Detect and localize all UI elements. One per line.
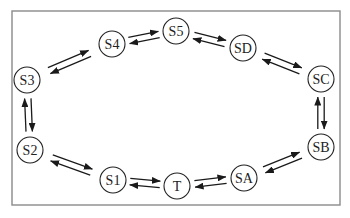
- state-node-s3: S3: [14, 67, 40, 93]
- node-label: T: [173, 179, 182, 194]
- node-label: SB: [312, 140, 329, 155]
- state-node-sd: SD: [230, 35, 256, 61]
- node-label: SD: [234, 41, 252, 56]
- node-label: SA: [235, 171, 254, 186]
- node-label: S2: [23, 143, 38, 158]
- node-label: S3: [20, 73, 35, 88]
- node-label: S5: [169, 24, 184, 39]
- node-label: S4: [105, 37, 120, 52]
- node-label: S1: [106, 173, 121, 188]
- state-node-sc: SC: [308, 66, 334, 92]
- state-node-s4: S4: [99, 31, 125, 57]
- state-node-s2: S2: [17, 137, 43, 163]
- state-diagram: S5SDSCSBSATS1S2S3S4: [0, 0, 350, 218]
- state-node-s1: S1: [100, 167, 126, 193]
- state-node-s5: S5: [163, 18, 189, 44]
- state-node-sa: SA: [231, 165, 257, 191]
- state-node-t: T: [164, 173, 190, 199]
- state-node-sb: SB: [308, 134, 334, 160]
- node-label: SC: [312, 72, 329, 87]
